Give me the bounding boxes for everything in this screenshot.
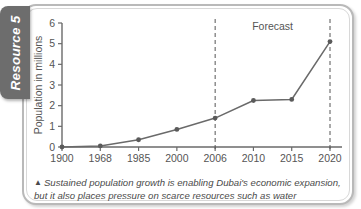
y-axis-title: Population in millions bbox=[32, 36, 44, 135]
y-axis-tick-label: 4 bbox=[49, 58, 55, 70]
figure-caption: ▲Sustained population growth is enabling… bbox=[34, 176, 346, 202]
y-axis-tick-label: 1 bbox=[49, 120, 55, 132]
x-axis-tick-label: 1900 bbox=[50, 152, 74, 164]
x-axis-tick-label: 1985 bbox=[127, 152, 151, 164]
y-axis-tick-label: 2 bbox=[49, 99, 55, 111]
series-data-point bbox=[98, 144, 103, 149]
y-axis-tick-label: 6 bbox=[49, 17, 55, 29]
series-data-point bbox=[289, 97, 294, 102]
x-axis-tick-label: 2015 bbox=[280, 152, 304, 164]
y-axis-tick-label: 3 bbox=[49, 79, 55, 91]
figure-caption-text: Sustained population growth is enabling … bbox=[34, 177, 341, 201]
forecast-label: Forecast bbox=[252, 20, 293, 32]
population-line-chart: 0123456 19001968198520002006201020152020… bbox=[30, 10, 348, 165]
series-data-point bbox=[174, 127, 179, 132]
population-series bbox=[60, 39, 333, 149]
series-data-point bbox=[328, 39, 333, 44]
x-axis-tick-label: 2000 bbox=[165, 152, 189, 164]
up-triangle-icon: ▲ bbox=[34, 176, 42, 189]
chart-canvas: 0123456 19001968198520002006201020152020… bbox=[30, 10, 348, 165]
series-data-point bbox=[60, 145, 65, 150]
forecast-dividers bbox=[215, 19, 330, 151]
x-axis: 19001968198520002006201020152020 bbox=[50, 147, 342, 164]
y-axis: 0123456 bbox=[49, 17, 62, 153]
resource-tab-label: Resource 5 bbox=[8, 15, 23, 90]
series-line bbox=[62, 42, 330, 147]
y-axis-tick-label: 5 bbox=[49, 37, 55, 49]
series-data-point bbox=[136, 137, 141, 142]
series-data-point bbox=[251, 98, 256, 103]
y-axis-tick-label: 0 bbox=[49, 141, 55, 153]
x-axis-tick-label: 2010 bbox=[242, 152, 266, 164]
x-axis-tick-label: 2020 bbox=[318, 152, 342, 164]
x-axis-tick-label: 1968 bbox=[89, 152, 113, 164]
chart-labels: ForecastYearPopulation in millions bbox=[32, 20, 293, 165]
resource-figure-panel: Resource 5 0123456 190019681985200020062… bbox=[0, 0, 361, 209]
series-data-point bbox=[213, 116, 218, 121]
resource-tab: Resource 5 bbox=[0, 6, 30, 99]
x-axis-tick-label: 2006 bbox=[203, 152, 227, 164]
